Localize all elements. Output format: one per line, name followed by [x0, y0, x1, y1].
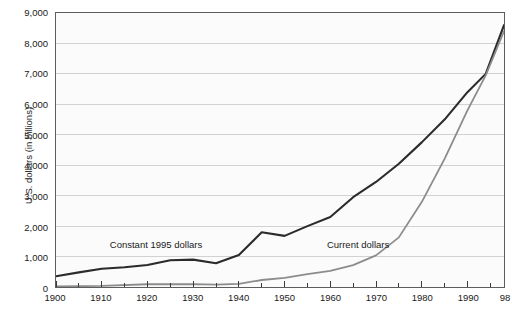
x-tick-label: 1970 [366, 292, 387, 303]
x-tick-label: 1910 [90, 292, 111, 303]
series-annotation-current-dollars: Current dollars [327, 239, 389, 250]
y-tick-label: 9,000 [0, 7, 48, 18]
x-tick-label: 1960 [320, 292, 341, 303]
x-tick-label: 1980 [412, 292, 433, 303]
series-annotation-constant-dollars: Constant 1995 dollars [110, 238, 202, 249]
y-tick-label: 7,000 [0, 68, 48, 79]
x-axis-tick-labels: 1900191019201930194019501960197019801990… [0, 292, 512, 312]
y-tick-label: 4,000 [0, 160, 48, 171]
x-tick-label: 1990 [458, 292, 479, 303]
y-tick-label: 3,000 [0, 191, 48, 202]
x-tick-label: 1940 [228, 292, 249, 303]
y-tick-label: 6,000 [0, 99, 48, 110]
x-tick-label: 1920 [136, 292, 157, 303]
y-tick-label: 1,000 [0, 252, 48, 263]
x-tick-label: 1930 [182, 292, 203, 303]
x-tick-label: 1900 [44, 292, 65, 303]
y-tick-label: 8,000 [0, 37, 48, 48]
y-tick-label: 5,000 [0, 129, 48, 140]
y-tick-label: 2,000 [0, 221, 48, 232]
x-tick-label: 1950 [274, 292, 295, 303]
x-tick-label: 98 [500, 292, 511, 303]
gdp-line-chart: U.S. dollars (in billions) 9,0008,0007,0… [0, 0, 512, 319]
